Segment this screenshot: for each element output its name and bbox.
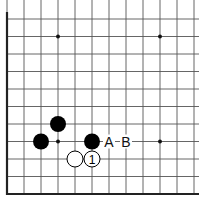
star-point-icon xyxy=(158,140,162,144)
go-board: AB 1 xyxy=(0,0,199,201)
black-stone xyxy=(33,134,49,150)
board-edges xyxy=(6,12,199,195)
black-stone-icon xyxy=(33,134,49,150)
star-point-icon xyxy=(56,140,60,144)
grid-lines xyxy=(7,0,199,194)
point-label-a: A xyxy=(104,134,114,150)
white-stone-1: 1 xyxy=(84,151,100,167)
white-stone-icon xyxy=(67,151,83,167)
white-stone xyxy=(67,151,83,167)
star-point-icon xyxy=(56,35,60,39)
black-stone-icon xyxy=(84,134,100,150)
star-point-icon xyxy=(158,35,162,39)
point-label-b: B xyxy=(121,134,130,150)
black-stone-icon xyxy=(50,116,66,132)
black-stone xyxy=(50,116,66,132)
move-number: 1 xyxy=(89,153,96,167)
black-stone xyxy=(84,134,100,150)
